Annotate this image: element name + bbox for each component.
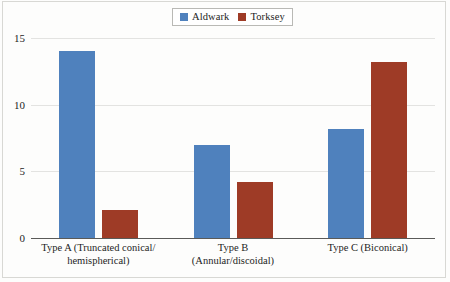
bar-torksey-group-1 bbox=[102, 210, 138, 238]
legend-item-aldwark: Aldwark bbox=[180, 11, 229, 22]
bar-aldwark-group-2 bbox=[194, 145, 230, 238]
y-axis-tick-5: 5 bbox=[20, 166, 26, 177]
x-axis-label-line: Type C (Biconical) bbox=[300, 241, 435, 254]
chart-legend: Aldwark Torksey bbox=[172, 8, 293, 26]
x-axis-label-line: Type B bbox=[166, 241, 301, 254]
legend-label-aldwark: Aldwark bbox=[192, 11, 229, 22]
bar-aldwark-group-3 bbox=[328, 129, 364, 238]
x-axis-label-line: hemispherical) bbox=[31, 254, 166, 267]
x-axis-label-line: (Annular/discoidal) bbox=[166, 254, 301, 267]
x-axis-label-group-1: Type A (Truncated conical/hemispherical) bbox=[31, 241, 166, 267]
x-axis-label-group-2: Type B(Annular/discoidal) bbox=[166, 241, 301, 267]
x-axis-label-line: Type A (Truncated conical/ bbox=[31, 241, 166, 254]
y-axis-tick-10: 10 bbox=[14, 99, 25, 110]
x-axis-category-labels: Type A (Truncated conical/hemispherical)… bbox=[31, 241, 435, 281]
legend-label-torksey: Torksey bbox=[250, 11, 284, 22]
bar-aldwark-group-1 bbox=[59, 51, 95, 238]
x-axis-label-group-3: Type C (Biconical) bbox=[300, 241, 435, 254]
y-axis-tick-0: 0 bbox=[20, 233, 26, 244]
legend-item-torksey: Torksey bbox=[238, 11, 284, 22]
bar-torksey-group-2 bbox=[237, 182, 273, 238]
legend-swatch-torksey bbox=[238, 13, 246, 21]
bar-chart-figure: Aldwark Torksey 051015 Type A (Truncated… bbox=[0, 0, 450, 282]
legend-swatch-aldwark bbox=[180, 13, 188, 21]
y-axis-tick-15: 15 bbox=[14, 33, 25, 44]
bar-torksey-group-3 bbox=[371, 62, 407, 238]
plot-area: 051015 bbox=[31, 38, 435, 238]
gridline-15 bbox=[31, 38, 435, 39]
